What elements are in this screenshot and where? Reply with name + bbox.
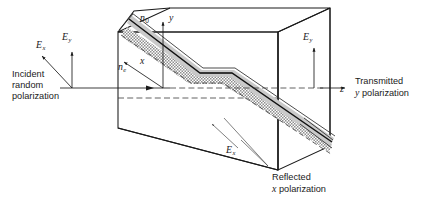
ey-left-label: Ey — [61, 31, 71, 43]
polarizer-prism-diagram: Incident random polarization Transmitted… — [0, 0, 423, 202]
reflected-label-line2: x polarization — [271, 183, 326, 194]
index-ordinary-symbol: n — [140, 12, 145, 23]
incident-label-line1: Incident — [12, 69, 45, 79]
ex-bottom-symbol: E — [225, 144, 232, 155]
left-field-vectors — [42, 52, 72, 88]
ex-left-subscript: x — [41, 44, 45, 51]
index-ordinary-subscript: 0 — [145, 17, 149, 24]
ex-bottom-subscript: x — [231, 149, 235, 156]
incident-label-line3: polarization — [12, 91, 59, 101]
prism-top-face — [118, 8, 330, 32]
reflected-leader-line-2 — [241, 140, 268, 166]
reflected-leader-line — [224, 118, 268, 166]
transmitted-label-line1: Transmitted — [355, 76, 403, 86]
incident-label-line2: random — [12, 80, 43, 90]
incident-ray-arrowhead — [146, 86, 154, 91]
reflected-leaders — [212, 118, 268, 166]
index-extraordinary-symbol: n — [118, 61, 123, 72]
ex-left-label: Ex — [35, 39, 45, 51]
index-ordinary-label: n0 — [140, 12, 149, 24]
ey-right-label: Ey — [302, 31, 312, 43]
cemented-interface — [118, 8, 335, 154]
optical-axis-rays — [60, 86, 345, 91]
prism-bottom-front-edge — [118, 128, 278, 170]
ex-bottom-label: Ex — [225, 144, 235, 156]
ey-left-subscript: y — [67, 36, 71, 43]
reflected-label-line1: Reflected — [272, 172, 311, 182]
ey-left-symbol: E — [61, 31, 68, 42]
reflected-polarization-word: polarization — [276, 184, 326, 194]
ex-bottom-leader-arrow — [212, 124, 238, 148]
z-axis-label: z — [339, 83, 344, 94]
ey-right-symbol: E — [302, 31, 309, 42]
transmitted-label-line2: y polarization — [354, 87, 409, 98]
y-axis-label: y — [168, 12, 174, 23]
ex-left-arrow — [42, 56, 72, 88]
x-axis-label: x — [139, 55, 145, 66]
transmitted-polarization-word: polarization — [359, 88, 409, 98]
ey-right-subscript: y — [308, 36, 312, 43]
ex-left-symbol: E — [35, 39, 42, 50]
index-extraordinary-subscript: e — [123, 66, 126, 73]
